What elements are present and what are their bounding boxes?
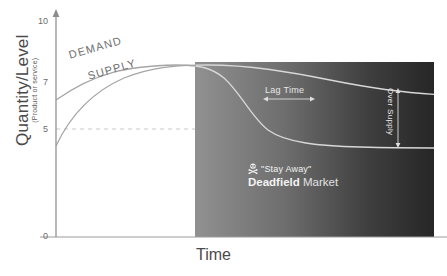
y-tick-0: 0 (32, 231, 48, 241)
market-label: Market (300, 176, 338, 188)
chart-canvas (0, 0, 447, 276)
x-axis-title: Time (196, 246, 231, 264)
over-supply-label: Over Supply (386, 88, 395, 135)
y-axis-subtitle: (Product or service) (31, 20, 38, 160)
y-axis-title: Quantity/Level (14, 20, 31, 160)
y-tick-7: 7 (32, 77, 48, 87)
lag-time-label: Lag Time (265, 85, 304, 95)
stay-away-label: "Stay Away" (261, 164, 311, 174)
y-tick-5: 5 (32, 124, 48, 134)
stay-away-row: "Stay Away" (248, 163, 338, 174)
deadfield-shaded-region (195, 62, 434, 237)
skull-and-crossbones-icon (248, 163, 258, 174)
deadfield-label: Deadfield (248, 176, 300, 188)
demand-supply-chart: Quantity/Level (Product or service) Time… (0, 0, 447, 276)
deadfield-market-annotation: "Stay Away" Deadfield Market (248, 163, 338, 188)
y-axis-title-group: Quantity/Level (Product or service) (14, 20, 38, 160)
y-tick-10: 10 (32, 16, 48, 26)
y-axis-arrow (53, 9, 60, 17)
deadfield-market-row: Deadfield Market (248, 176, 338, 188)
